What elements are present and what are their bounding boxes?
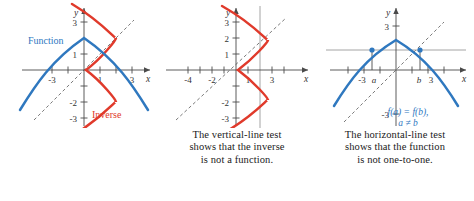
annotation-line-2: a ≠ b xyxy=(398,118,418,128)
marked-point-a xyxy=(369,47,374,52)
y-ticklabel--3: -3 xyxy=(222,114,230,124)
panel-horizontal-line-test: -3 a b 3 3 -3 x y f(a) = f(b), a ≠ b The… xyxy=(316,0,474,201)
plot-function-and-inverse: -3 1 3 3 1 -2 -3 x y Function Inverse xyxy=(0,0,158,128)
marked-point-b xyxy=(417,47,422,52)
y-ticklabel-1: 1 xyxy=(73,50,78,60)
plot-horizontal-line-test: -3 a b 3 3 -3 x y f(a) = f(b), a ≠ b xyxy=(316,0,474,128)
x-axis-arrow xyxy=(460,67,466,72)
caption-line: is not a function. xyxy=(189,154,284,166)
caption-line: shows that the function xyxy=(345,141,445,153)
x-axis-label: x xyxy=(303,74,309,84)
y-ticklabel--2: -2 xyxy=(70,98,78,108)
x-axis-label: x xyxy=(461,74,467,84)
figure-three-panel-function-inverse: -3 1 3 3 1 -2 -3 x y Function Inverse xyxy=(0,0,474,201)
label-function: Function xyxy=(28,35,64,46)
caption-line: is not one-to-one. xyxy=(345,154,445,166)
x-ticklabel--3: -3 xyxy=(48,75,56,85)
x-ticklabel-b: b xyxy=(417,75,422,85)
y-ticklabel-3: 3 xyxy=(73,18,78,28)
identity-line-dashed xyxy=(176,18,286,120)
label-inverse: Inverse xyxy=(92,109,122,120)
y-ticklabel--3: -3 xyxy=(70,114,78,124)
y-ticklabel-2: 2 xyxy=(225,34,230,44)
x-axis-arrow xyxy=(302,67,308,72)
caption-line: The vertical-line test xyxy=(189,129,284,141)
y-ticklabel-3: 3 xyxy=(385,22,390,32)
x-ticklabel--3: -3 xyxy=(358,75,366,85)
annotation-line-1: f(a) = f(b), xyxy=(388,107,429,118)
caption-line: shows that the inverse xyxy=(189,141,284,153)
x-ticklabel-3: 3 xyxy=(429,75,434,85)
caption-line: The horizontal-line test xyxy=(345,129,445,141)
x-ticklabel-3: 3 xyxy=(270,75,275,85)
x-ticklabel--4: -4 xyxy=(184,75,192,85)
panel-function-and-inverse: -3 1 3 3 1 -2 -3 x y Function Inverse xyxy=(0,0,158,201)
panel-vertical-line-test: -4 -2 1 3 3 2 1 -2 -3 x y The vertical-l… xyxy=(158,0,316,201)
y-ticklabel-3: 3 xyxy=(225,18,230,28)
x-axis-arrow xyxy=(144,67,150,72)
x-axis-label: x xyxy=(145,74,151,84)
caption-panel-2: The vertical-line testshows that the inv… xyxy=(189,129,284,166)
caption-panel-3: The horizontal-line testshows that the f… xyxy=(345,129,445,166)
y-axis-arrow xyxy=(393,8,398,14)
x-ticklabel-a: a xyxy=(372,75,377,85)
plot-vertical-line-test: -4 -2 1 3 3 2 1 -2 -3 x y xyxy=(158,0,316,128)
y-ticklabel-1: 1 xyxy=(225,50,230,60)
y-axis-label: y xyxy=(385,8,391,18)
y-axis-label: y xyxy=(73,8,79,18)
x-ticklabel--2: -2 xyxy=(208,75,216,85)
y-ticklabel--2: -2 xyxy=(222,98,230,108)
